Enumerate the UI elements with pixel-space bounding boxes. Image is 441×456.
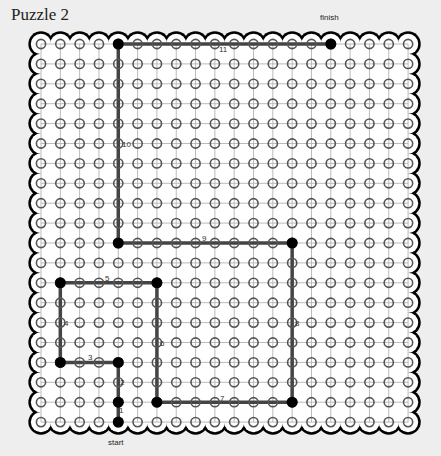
grid-dot[interactable] [75, 378, 84, 387]
grid-dot[interactable] [249, 39, 258, 48]
grid-dot[interactable] [268, 99, 277, 108]
grid-dot[interactable] [210, 338, 219, 347]
grid-dot[interactable] [75, 238, 84, 247]
grid-dot[interactable] [94, 418, 103, 427]
grid-dot[interactable] [133, 219, 142, 228]
grid-dot[interactable] [268, 119, 277, 128]
grid-dot[interactable] [191, 139, 200, 148]
grid-dot[interactable] [268, 378, 277, 387]
grid-dot[interactable] [288, 219, 297, 228]
grid-dot[interactable] [75, 278, 84, 287]
grid-dot[interactable] [36, 119, 45, 128]
grid-dot[interactable] [288, 378, 297, 387]
grid-dot[interactable] [152, 318, 161, 327]
grid-dot[interactable] [133, 238, 142, 247]
grid-dot[interactable] [288, 39, 297, 48]
grid-dot[interactable] [210, 398, 219, 407]
grid-dot[interactable] [384, 119, 393, 128]
grid-dot[interactable] [288, 159, 297, 168]
grid-dot[interactable] [249, 139, 258, 148]
grid-dot[interactable] [230, 99, 239, 108]
grid-dot[interactable] [365, 79, 374, 88]
grid-dot[interactable] [326, 298, 335, 307]
grid-dot[interactable] [152, 199, 161, 208]
grid-dot[interactable] [172, 119, 181, 128]
grid-dot[interactable] [326, 59, 335, 68]
grid-dot[interactable] [94, 59, 103, 68]
grid-dot[interactable] [384, 298, 393, 307]
grid-dot[interactable] [56, 39, 65, 48]
grid-dot[interactable] [326, 258, 335, 267]
grid-dot[interactable] [307, 39, 316, 48]
grid-dot[interactable] [403, 139, 412, 148]
grid-dot[interactable] [365, 119, 374, 128]
grid-dot[interactable] [346, 59, 355, 68]
grid-dot[interactable] [403, 278, 412, 287]
grid-dot[interactable] [326, 318, 335, 327]
grid-dot[interactable] [346, 258, 355, 267]
grid-dot[interactable] [114, 199, 123, 208]
grid-dot[interactable] [114, 338, 123, 347]
grid-dot[interactable] [133, 199, 142, 208]
grid-dot[interactable] [346, 79, 355, 88]
grid-dot[interactable] [75, 298, 84, 307]
grid-dot[interactable] [75, 39, 84, 48]
grid-dot[interactable] [172, 159, 181, 168]
grid-dot[interactable] [249, 179, 258, 188]
grid-dot[interactable] [152, 39, 161, 48]
grid-dot[interactable] [384, 139, 393, 148]
grid-dot[interactable] [268, 298, 277, 307]
grid-dot[interactable] [191, 79, 200, 88]
grid-dot[interactable] [94, 179, 103, 188]
grid-dot[interactable] [230, 278, 239, 287]
grid-dot[interactable] [326, 338, 335, 347]
grid-dot[interactable] [94, 119, 103, 128]
grid-dot[interactable] [307, 179, 316, 188]
grid-dot[interactable] [365, 199, 374, 208]
grid-dot[interactable] [75, 258, 84, 267]
grid-dot[interactable] [288, 59, 297, 68]
grid-dot[interactable] [268, 338, 277, 347]
grid-dot[interactable] [346, 278, 355, 287]
grid-dot[interactable] [172, 59, 181, 68]
grid-dot[interactable] [384, 338, 393, 347]
grid-dot[interactable] [249, 318, 258, 327]
grid-dot[interactable] [191, 159, 200, 168]
grid-dot[interactable] [210, 418, 219, 427]
grid-dot[interactable] [346, 99, 355, 108]
grid-dot[interactable] [326, 179, 335, 188]
grid-dot[interactable] [288, 119, 297, 128]
grid-dot[interactable] [268, 199, 277, 208]
grid-dot[interactable] [133, 258, 142, 267]
grid-dot[interactable] [94, 338, 103, 347]
grid-dot[interactable] [403, 199, 412, 208]
grid-dot[interactable] [307, 418, 316, 427]
grid-dot[interactable] [230, 338, 239, 347]
grid-dot[interactable] [114, 258, 123, 267]
grid-dot[interactable] [230, 79, 239, 88]
grid-dot[interactable] [365, 278, 374, 287]
grid-dot[interactable] [307, 199, 316, 208]
grid-dot[interactable] [75, 79, 84, 88]
grid-dot[interactable] [307, 378, 316, 387]
grid-dot[interactable] [288, 278, 297, 287]
grid-dot[interactable] [346, 418, 355, 427]
grid-dot[interactable] [346, 238, 355, 247]
grid-dot[interactable] [36, 238, 45, 247]
grid-dot[interactable] [56, 99, 65, 108]
grid-dot[interactable] [56, 159, 65, 168]
grid-dot[interactable] [36, 59, 45, 68]
grid-dot[interactable] [403, 398, 412, 407]
grid-dot[interactable] [365, 159, 374, 168]
grid-dot[interactable] [172, 318, 181, 327]
grid-dot[interactable] [307, 159, 316, 168]
grid-dot[interactable] [56, 398, 65, 407]
grid-dot[interactable] [210, 59, 219, 68]
grid-dot[interactable] [56, 378, 65, 387]
grid-dot[interactable] [307, 139, 316, 148]
grid-dot[interactable] [249, 238, 258, 247]
grid-dot[interactable] [403, 179, 412, 188]
grid-dot[interactable] [403, 119, 412, 128]
grid-dot[interactable] [210, 278, 219, 287]
grid-dot[interactable] [172, 139, 181, 148]
